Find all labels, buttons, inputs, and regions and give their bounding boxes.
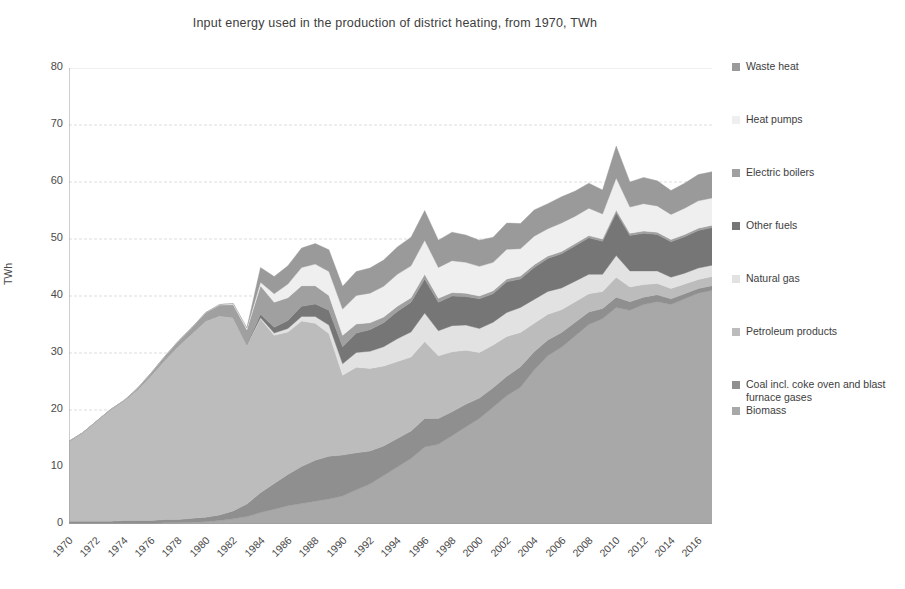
- y-tick-label: 30: [29, 345, 63, 357]
- legend-label: Waste heat: [746, 60, 799, 73]
- x-tick-label: 1996: [406, 534, 431, 559]
- legend-swatch-icon: [732, 116, 740, 124]
- legend-label: Other fuels: [746, 219, 797, 232]
- legend-label: Electric boilers: [746, 166, 814, 179]
- y-tick-label: 60: [29, 174, 63, 186]
- x-tick-label: 2016: [679, 534, 704, 559]
- legend-swatch-icon: [732, 63, 740, 71]
- chart-title: Input energy used in the production of d…: [0, 16, 790, 30]
- x-tick-label: 1994: [378, 534, 403, 559]
- legend-label: Natural gas: [746, 272, 800, 285]
- y-tick-label: 80: [29, 60, 63, 72]
- y-axis-tick-labels: 80706050403020100: [27, 68, 63, 524]
- x-tick-label: 1972: [77, 534, 102, 559]
- x-tick-label: 1992: [351, 534, 376, 559]
- legend-label: Biomass: [746, 404, 786, 417]
- chart-legend: Waste heatHeat pumpsElectric boilersOthe…: [732, 60, 902, 417]
- stacked-area-svg: [69, 68, 712, 524]
- x-tick-label: 2002: [488, 534, 513, 559]
- legend-item[interactable]: Other fuels: [732, 219, 902, 232]
- y-tick-label: 50: [29, 231, 63, 243]
- legend-swatch-icon: [732, 407, 740, 415]
- x-tick-label: 1974: [105, 534, 130, 559]
- x-tick-label: 2008: [570, 534, 595, 559]
- legend-swatch-icon: [732, 381, 740, 389]
- x-tick-label: 1986: [269, 534, 294, 559]
- x-tick-label: 1982: [214, 534, 239, 559]
- chart-page: Input energy used in the production of d…: [0, 0, 905, 589]
- legend-label: Coal incl. coke oven and blast furnace g…: [746, 378, 896, 404]
- legend-item[interactable]: Natural gas: [732, 272, 902, 285]
- x-tick-label: 1984: [241, 534, 266, 559]
- legend-swatch-icon: [732, 275, 740, 283]
- legend-swatch-icon: [732, 169, 740, 177]
- x-tick-label: 2004: [515, 534, 540, 559]
- legend-swatch-icon: [732, 328, 740, 336]
- x-tick-label: 2000: [460, 534, 485, 559]
- x-tick-label: 1980: [187, 534, 212, 559]
- legend-item[interactable]: Petroleum products: [732, 325, 902, 338]
- y-tick-label: 20: [29, 402, 63, 414]
- legend-item[interactable]: Waste heat: [732, 60, 902, 73]
- x-tick-label: 1998: [433, 534, 458, 559]
- x-tick-label: 1976: [132, 534, 157, 559]
- plot-area: [69, 68, 712, 524]
- legend-item[interactable]: Coal incl. coke oven and blast furnace g…: [732, 378, 902, 404]
- legend-label: Petroleum products: [746, 325, 837, 338]
- x-tick-label: 2006: [542, 534, 567, 559]
- legend-swatch-icon: [732, 222, 740, 230]
- x-tick-label: 1990: [323, 534, 348, 559]
- y-tick-label: 10: [29, 459, 63, 471]
- x-tick-label: 2012: [624, 534, 649, 559]
- x-tick-label: 2010: [597, 534, 622, 559]
- x-tick-label: 1988: [296, 534, 321, 559]
- area-series-group: [69, 146, 712, 524]
- legend-item[interactable]: Biomass: [732, 404, 902, 417]
- y-tick-label: 40: [29, 288, 63, 300]
- x-tick-label: 1978: [159, 534, 184, 559]
- y-tick-label: 0: [29, 516, 63, 528]
- y-tick-label: 70: [29, 117, 63, 129]
- legend-item[interactable]: Heat pumps: [732, 113, 902, 126]
- x-tick-label: 1970: [50, 534, 75, 559]
- legend-item[interactable]: Electric boilers: [732, 166, 902, 179]
- y-axis-title: TWh: [2, 244, 14, 304]
- legend-label: Heat pumps: [746, 113, 803, 126]
- x-tick-label: 2014: [652, 534, 677, 559]
- x-axis-tick-labels: 1970197219741976197819801982198419861988…: [69, 528, 729, 588]
